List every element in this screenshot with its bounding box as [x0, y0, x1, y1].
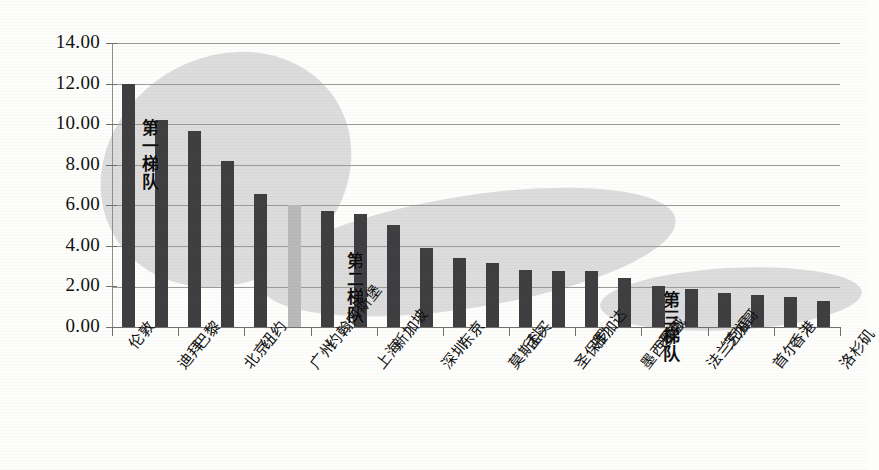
x-axis-tick-mark: [311, 327, 312, 336]
x-axis-tick-mark: [443, 327, 444, 336]
x-axis-tick-mark: [112, 327, 113, 336]
x-axis-tick-mark: [244, 327, 245, 336]
x-axis-tick-mark: [774, 327, 775, 336]
x-axis-tick-mark: [840, 327, 841, 336]
x-axis-label-约翰内斯堡: 约翰内斯堡: [321, 279, 385, 353]
x-axis-tick-mark: [377, 327, 378, 336]
x-axis-label-新加坡: 新加坡: [387, 303, 432, 353]
x-axis-label-伦敦: 伦敦: [123, 316, 159, 353]
x-axis-tick-mark: [641, 327, 642, 336]
x-axis-tick-mark: [178, 327, 179, 336]
x-axis-tick-mark: [509, 327, 510, 336]
x-axis-tick-mark: [575, 327, 576, 336]
x-axis-tick-mark: [708, 327, 709, 336]
